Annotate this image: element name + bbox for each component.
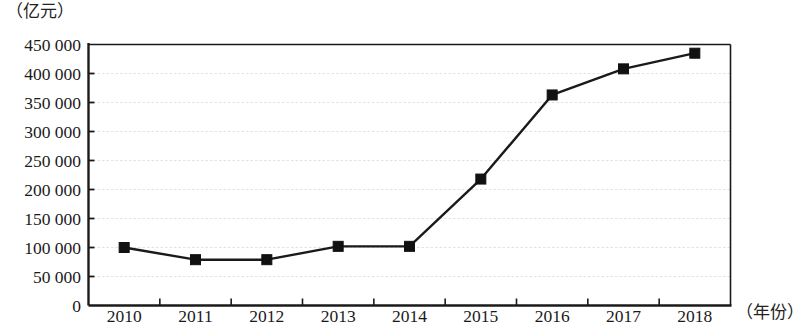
data-point-marker: [619, 64, 629, 74]
x-tick-label: 2015: [463, 306, 498, 326]
data-line: [124, 53, 695, 259]
data-point-marker: [119, 243, 129, 253]
data-point-marker: [191, 255, 201, 265]
x-tick-label: 2010: [107, 306, 142, 326]
plot-frame: [89, 43, 732, 306]
data-markers: [119, 48, 700, 264]
data-point-marker: [690, 48, 700, 58]
x-tick-label: 2011: [178, 306, 212, 326]
data-point-marker: [547, 90, 557, 100]
data-point-marker: [405, 241, 415, 251]
x-axis-title: （年份）: [736, 303, 797, 323]
data-point-marker: [333, 241, 343, 251]
chart-figure: （亿元） 050 000100 000150 000200 000250 000…: [0, 0, 797, 330]
x-tick-label: 2013: [321, 306, 356, 326]
x-tick-label: 2018: [677, 306, 712, 326]
x-tick-label: 2017: [606, 306, 641, 326]
x-tick-label: 2016: [535, 306, 570, 326]
data-point-marker: [262, 255, 272, 265]
x-axis-tick-labels: 201020112012201320142015201620172018: [0, 306, 797, 330]
data-point-marker: [476, 174, 486, 184]
x-tick-label: 2014: [392, 306, 427, 326]
x-tick-label: 2012: [249, 306, 284, 326]
plot-area: [0, 0, 797, 330]
